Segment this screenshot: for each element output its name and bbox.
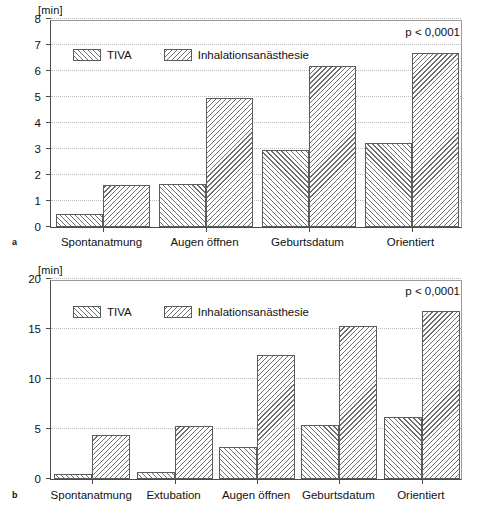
x-tick: [412, 227, 413, 232]
y-axis-unit-label-b: [min]: [38, 264, 63, 276]
bar-inhalationsansthesie-2: [257, 355, 295, 479]
gridline: [51, 44, 461, 45]
y-tick: [46, 70, 51, 71]
bar-inhalationsansthesie-4: [422, 311, 460, 479]
x-tick: [206, 227, 207, 232]
x-axis-tick-label: Geburtsdatum: [302, 489, 375, 501]
gridline: [51, 328, 461, 329]
bar-inhalationsansthesie-1: [175, 426, 213, 479]
gridline: [51, 122, 461, 123]
panel-letter-a: a: [12, 237, 17, 247]
y-axis-tick-label: 0: [11, 222, 41, 234]
y-tick: [46, 200, 51, 201]
y-axis-tick-label: 3: [11, 144, 41, 156]
chart-panel-a: [min] a p < 0,0001 TIVA Inhalationsanäst…: [0, 0, 478, 260]
bar-tiva-1: [137, 472, 175, 479]
x-axis-tick-label: Geburtsdatum: [271, 236, 344, 248]
x-tick: [103, 227, 104, 232]
x-tick: [339, 479, 340, 484]
bar-tiva-4: [384, 417, 422, 479]
y-tick: [46, 122, 51, 123]
bar-inhalationsansthesie-2: [309, 66, 356, 227]
bar-tiva-1: [159, 184, 206, 227]
y-tick: [46, 278, 51, 279]
bar-tiva-0: [56, 214, 103, 227]
legend-b: TIVA Inhalationsanästhesie: [73, 306, 309, 318]
y-axis-tick-label: 7: [11, 40, 41, 52]
y-axis-unit-label: [min]: [38, 4, 63, 16]
x-axis-tick-label: Orientiert: [387, 236, 434, 248]
legend-a: TIVA Inhalationsanästhesie: [73, 49, 309, 61]
y-axis-tick-label: 1: [11, 196, 41, 208]
x-tick: [422, 479, 423, 484]
x-axis-tick-label: Spontanatmung: [61, 236, 142, 248]
gridline: [51, 18, 461, 19]
y-axis-tick-label: 8: [11, 14, 41, 26]
plot-area-a: TIVA Inhalationsanästhesie: [50, 20, 462, 228]
legend-swatch-inhalation-icon: [164, 49, 192, 61]
bar-inhalationsansthesie-0: [103, 185, 150, 227]
chart-panel-b: [min] b p < 0,0001 TIVA Inhalationsanäst…: [0, 260, 478, 519]
legend-entry-inhalation-b: Inhalationsanästhesie: [164, 306, 309, 318]
bar-inhalationsansthesie-3: [339, 326, 377, 479]
gridline: [51, 96, 461, 97]
x-tick: [257, 479, 258, 484]
y-tick: [46, 148, 51, 149]
y-tick: [46, 18, 51, 19]
gridline: [51, 70, 461, 71]
plot-area-b: TIVA Inhalationsanästhesie: [50, 280, 462, 480]
y-axis-tick-label: 20: [11, 274, 41, 286]
panel-letter-b: b: [12, 490, 18, 500]
y-tick: [46, 378, 51, 379]
bar-inhalationsansthesie-3: [412, 53, 459, 227]
y-axis-tick-label: 6: [11, 66, 41, 78]
x-tick: [92, 479, 93, 484]
legend-label-tiva: TIVA: [107, 49, 132, 61]
y-axis-tick-label: 15: [11, 324, 41, 336]
y-axis-tick-label: 5: [11, 92, 41, 104]
y-axis-tick-label: 2: [11, 170, 41, 182]
bar-inhalationsansthesie-0: [92, 435, 130, 479]
y-tick: [46, 328, 51, 329]
x-tick: [309, 227, 310, 232]
y-tick: [46, 96, 51, 97]
bar-tiva-3: [301, 425, 339, 479]
x-axis-tick-label: Augen öffnen: [222, 489, 290, 501]
bar-tiva-2: [219, 447, 257, 479]
legend-swatch-inhalation-icon-b: [164, 306, 192, 318]
legend-entry-inhalation: Inhalationsanästhesie: [164, 49, 309, 61]
x-axis-tick-label: Orientiert: [397, 489, 444, 501]
y-axis-tick-label: 0: [11, 474, 41, 486]
legend-entry-tiva-b: TIVA: [73, 306, 132, 318]
legend-entry-tiva: TIVA: [73, 49, 132, 61]
gridline: [51, 278, 461, 279]
y-tick: [46, 44, 51, 45]
legend-label-inhalation: Inhalationsanästhesie: [198, 49, 309, 61]
bar-tiva-0: [54, 474, 92, 480]
x-axis-tick-label: Extubation: [146, 489, 200, 501]
legend-swatch-tiva-icon-b: [73, 306, 101, 318]
bar-tiva-3: [365, 143, 412, 228]
gridline: [51, 378, 461, 379]
bar-tiva-2: [262, 150, 309, 227]
x-axis-tick-label: Augen öffnen: [170, 236, 238, 248]
y-tick: [46, 428, 51, 429]
y-axis-tick-label: 4: [11, 118, 41, 130]
legend-label-tiva-b: TIVA: [107, 306, 132, 318]
x-tick: [175, 479, 176, 484]
bar-inhalationsansthesie-1: [206, 98, 253, 227]
y-axis-tick-label: 5: [11, 424, 41, 436]
y-tick: [46, 174, 51, 175]
legend-swatch-tiva-icon: [73, 49, 101, 61]
y-axis-tick-label: 10: [11, 374, 41, 386]
y-tick: [46, 478, 51, 479]
legend-label-inhalation-b: Inhalationsanästhesie: [198, 306, 309, 318]
y-tick: [46, 226, 51, 227]
x-axis-tick-label: Spontanatmung: [51, 489, 132, 501]
